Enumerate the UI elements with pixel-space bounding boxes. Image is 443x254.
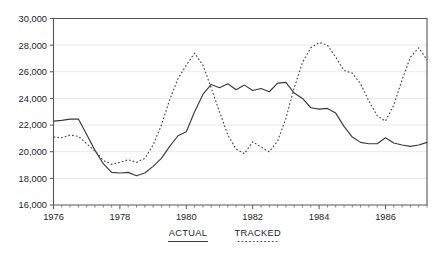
x-axis-tick-labels: 197619781980198219841986 xyxy=(43,212,396,222)
x-tick-label: 1982 xyxy=(242,212,263,222)
y-tick-label: 26,000 xyxy=(19,67,47,77)
y-tick-label: 30,000 xyxy=(19,14,47,24)
y-tick-label: 28,000 xyxy=(19,41,47,51)
x-tick-label: 1976 xyxy=(43,212,64,222)
line-chart: 16,00018,00020,00022,00024,00026,00028,0… xyxy=(0,0,443,254)
y-tick-label: 20,000 xyxy=(19,147,47,157)
chart-legend: ACTUALTRACKED xyxy=(168,228,281,242)
series-line-actual xyxy=(54,82,428,175)
y-tick-label: 22,000 xyxy=(19,120,47,130)
x-tick-label: 1986 xyxy=(375,212,396,222)
x-tick-label: 1980 xyxy=(176,212,197,222)
plot-border xyxy=(54,19,428,206)
series-line-tracked xyxy=(54,42,428,164)
gridlines xyxy=(54,19,428,179)
series-lines xyxy=(54,42,428,175)
y-tick-label: 18,000 xyxy=(19,174,47,184)
legend-label-tracked: TRACKED xyxy=(234,228,281,238)
x-tick-label: 1978 xyxy=(110,212,131,222)
y-tick-label: 24,000 xyxy=(19,94,47,104)
y-axis-tick-labels: 16,00018,00020,00022,00024,00026,00028,0… xyxy=(19,14,47,211)
y-tick-label: 16,000 xyxy=(19,200,47,210)
plot-frame xyxy=(54,19,428,206)
x-axis-ticks xyxy=(54,205,428,209)
x-tick-label: 1984 xyxy=(309,212,330,222)
chart-container: 16,00018,00020,00022,00024,00026,00028,0… xyxy=(0,0,443,254)
legend-label-actual: ACTUAL xyxy=(169,228,207,238)
